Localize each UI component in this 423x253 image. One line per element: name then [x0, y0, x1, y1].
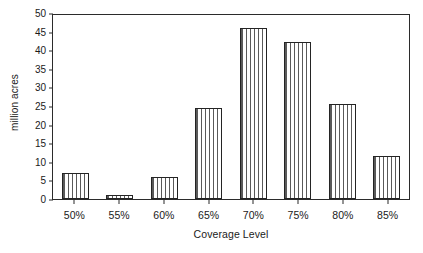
plot-area: [52, 14, 410, 200]
bar-55pct: [106, 195, 133, 199]
x-tick-slot: [142, 200, 187, 205]
x-tick-slot: [321, 200, 366, 205]
x-axis-tick-mark: [342, 200, 343, 204]
x-axis-tick-label: 60%: [142, 208, 187, 222]
bar-70pct: [240, 28, 267, 199]
x-axis-tick-label: 80%: [321, 208, 366, 222]
y-axis-tick-label: 45: [35, 28, 46, 38]
x-tick-slot: [365, 200, 410, 205]
bar-50pct: [62, 173, 89, 199]
y-axis-tick-labels: 05101520253035404550: [24, 14, 46, 200]
bar-65pct: [195, 108, 222, 199]
y-axis-tick-label: 30: [35, 83, 46, 93]
x-tick-slot: [231, 200, 276, 205]
x-tick-slot: [276, 200, 321, 205]
bar-slot: [142, 15, 187, 199]
bar-slot: [365, 15, 410, 199]
bar-60pct: [151, 177, 178, 199]
x-axis-tick-label: 50%: [52, 208, 97, 222]
bars-container: [53, 15, 409, 199]
x-axis-tick-mark: [298, 200, 299, 204]
x-axis-tick-label: 70%: [231, 208, 276, 222]
x-tick-slot: [97, 200, 142, 205]
y-axis-tick-label: 40: [35, 46, 46, 56]
x-tick-slot: [52, 200, 97, 205]
y-axis-tick-label: 20: [35, 121, 46, 131]
bar-chart: million acres 05101520253035404550 50%55…: [0, 0, 423, 253]
y-axis-tick-label: 25: [35, 102, 46, 112]
x-axis-tick-label: 55%: [97, 208, 142, 222]
y-axis-title-text: million acres: [9, 74, 20, 131]
y-axis-tick-label: 10: [35, 158, 46, 168]
bar-slot: [98, 15, 143, 199]
y-axis-tick-label: 50: [35, 9, 46, 19]
x-axis-title: Coverage Level: [52, 228, 410, 241]
bar-slot: [53, 15, 98, 199]
y-axis-tick-label: 5: [40, 176, 46, 186]
bar-80pct: [329, 104, 356, 199]
y-axis-title: million acres: [4, 0, 24, 205]
x-tick-slot: [186, 200, 231, 205]
x-axis-tick-label: 75%: [276, 208, 321, 222]
bar-slot: [231, 15, 276, 199]
y-axis-tick-label: 15: [35, 139, 46, 149]
x-axis-tick-mark: [163, 200, 164, 204]
bar-slot: [187, 15, 232, 199]
x-axis-tick-marks: [52, 200, 410, 205]
x-axis-tick-labels: 50%55%60%65%70%75%80%85%: [52, 208, 410, 222]
x-axis-tick-mark: [119, 200, 120, 204]
bar-slot: [276, 15, 321, 199]
x-axis-tick-label: 85%: [365, 208, 410, 222]
x-axis-tick-mark: [387, 200, 388, 204]
bar-75pct: [284, 42, 311, 199]
x-axis-tick-mark: [208, 200, 209, 204]
y-axis-tick-label: 0: [40, 195, 46, 205]
x-axis-tick-mark: [74, 200, 75, 204]
y-axis-tick-label: 35: [35, 65, 46, 75]
bar-85pct: [373, 156, 400, 199]
bar-slot: [320, 15, 365, 199]
x-axis-tick-label: 65%: [186, 208, 231, 222]
x-axis-tick-mark: [253, 200, 254, 204]
